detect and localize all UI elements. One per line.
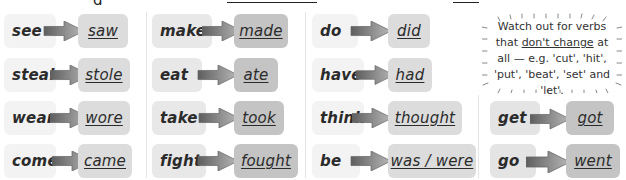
past-verb: ate bbox=[244, 66, 269, 84]
base-verb: be bbox=[320, 152, 341, 170]
verb-pair: do did bbox=[312, 14, 462, 48]
verb-pair: get got bbox=[490, 101, 624, 135]
column-divider bbox=[478, 95, 479, 178]
past-verb: fought bbox=[241, 152, 291, 170]
past-verb-box: made bbox=[234, 14, 288, 48]
verb-pair: eat ate bbox=[152, 58, 302, 92]
arrow-icon bbox=[352, 108, 392, 128]
past-verb: had bbox=[396, 66, 425, 84]
past-verb-box: saw bbox=[78, 14, 128, 48]
past-verb-box: thought bbox=[388, 101, 462, 135]
verb-pair: think thought bbox=[312, 101, 462, 135]
heading-underline bbox=[453, 2, 479, 3]
tip-line: that don't change at bbox=[488, 35, 616, 51]
verb-pair: see saw bbox=[4, 14, 144, 48]
tip-line: 'put', 'beat', 'set' and 'let'. bbox=[488, 67, 616, 99]
past-verb-box: ate bbox=[234, 58, 278, 92]
base-verb: wear bbox=[12, 109, 54, 127]
base-verb: come bbox=[12, 152, 58, 170]
past-verb-box: had bbox=[388, 58, 432, 92]
base-verb: do bbox=[320, 22, 341, 40]
arrow-icon bbox=[530, 108, 570, 130]
base-verb: take bbox=[160, 109, 198, 127]
verb-pair: wear wore bbox=[4, 101, 144, 135]
past-verb: thought bbox=[395, 109, 455, 127]
base-verb: steal bbox=[12, 66, 55, 84]
column-divider bbox=[305, 12, 306, 178]
past-verb: made bbox=[239, 22, 282, 40]
base-verb-box: come bbox=[4, 144, 56, 178]
tip-emphasis: don't change bbox=[522, 36, 594, 49]
tip-text: at bbox=[594, 36, 609, 49]
past-verb: saw bbox=[88, 22, 118, 40]
verb-pair: come came bbox=[4, 144, 144, 178]
base-verb: get bbox=[498, 109, 527, 127]
past-verb: was / were bbox=[391, 152, 474, 170]
tip-note: Watch out for verbs that don't change at… bbox=[482, 13, 622, 93]
verb-pair: steal stole bbox=[4, 58, 144, 92]
tip-text: that bbox=[496, 36, 522, 49]
past-verb-box: fought bbox=[234, 144, 298, 178]
verb-pair: go went bbox=[490, 144, 624, 178]
past-verb: came bbox=[84, 152, 126, 170]
base-verb: make bbox=[160, 22, 206, 40]
arrow-icon bbox=[526, 151, 570, 173]
past-verb: wore bbox=[85, 109, 123, 127]
base-verb: go bbox=[498, 152, 519, 170]
past-verb-box: stole bbox=[78, 58, 130, 92]
past-verb-box: took bbox=[234, 101, 284, 135]
past-verb-box: went bbox=[566, 144, 620, 178]
past-verb-box: wore bbox=[78, 101, 130, 135]
heading-underline bbox=[227, 2, 317, 3]
past-verb: took bbox=[242, 109, 276, 127]
tip-note-text: Watch out for verbs that don't change at… bbox=[488, 19, 616, 99]
base-verb-box: eat bbox=[152, 58, 202, 92]
verb-pair: fight fought bbox=[152, 144, 302, 178]
past-verb: did bbox=[397, 22, 421, 40]
verb-pair: have had bbox=[312, 58, 462, 92]
past-verb-box: got bbox=[566, 101, 614, 135]
base-verb: see bbox=[12, 22, 42, 40]
verb-pair: be was / were bbox=[312, 144, 462, 178]
column-divider bbox=[146, 12, 147, 178]
verb-pair: take took bbox=[152, 101, 302, 135]
cropped-heading-fragment: g bbox=[93, 0, 103, 5]
verb-pair: make made bbox=[152, 14, 302, 48]
past-verb: went bbox=[574, 152, 612, 170]
tip-line: all — e.g. 'cut', 'hit', bbox=[488, 51, 616, 67]
base-verb-box: steal bbox=[4, 58, 56, 92]
past-verb-box: was / were bbox=[388, 144, 476, 178]
base-verb-box: wear bbox=[4, 101, 56, 135]
past-verb-box: came bbox=[78, 144, 132, 178]
base-verb: eat bbox=[160, 66, 188, 84]
past-verb: got bbox=[577, 109, 602, 127]
past-verb: stole bbox=[85, 66, 122, 84]
cropped-heading: g bbox=[0, 0, 626, 5]
tip-line: Watch out for verbs bbox=[488, 19, 616, 35]
past-verb-box: did bbox=[388, 14, 430, 48]
